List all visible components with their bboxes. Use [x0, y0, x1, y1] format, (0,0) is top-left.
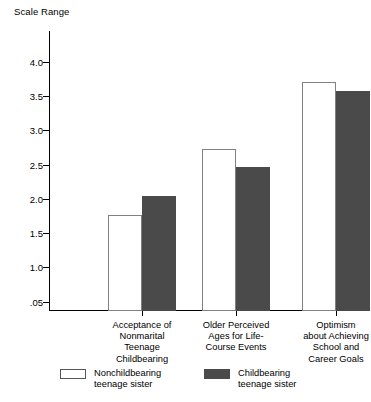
- bar-nonchildbearing: [202, 149, 236, 311]
- y-tick: [43, 267, 49, 268]
- bar-chart: Scale Range 4.03.53.02.52.01.51.0.05 Acc…: [0, 0, 371, 402]
- x-tick: [236, 311, 237, 316]
- y-tick-label: 1.5: [9, 229, 43, 239]
- bar-childbearing: [142, 196, 176, 311]
- category-label: Optimism about Achieving School and Care…: [276, 320, 371, 365]
- y-tick: [43, 62, 49, 63]
- y-axis-title: Scale Range: [14, 6, 70, 17]
- y-tick: [43, 199, 49, 200]
- x-tick: [336, 311, 337, 316]
- y-tick-label: 3.5: [9, 92, 43, 102]
- y-tick-label: .05: [9, 298, 43, 308]
- legend-item: Childbearing teenage sister: [204, 368, 296, 390]
- y-axis-line: [49, 31, 50, 311]
- legend-item: Nonchildbearing teenage sister: [60, 368, 161, 390]
- bar-childbearing: [336, 91, 370, 311]
- bar-nonchildbearing: [108, 215, 142, 311]
- y-tick: [43, 130, 49, 131]
- bar-nonchildbearing: [302, 82, 336, 311]
- y-tick: [43, 165, 49, 166]
- y-tick: [43, 302, 49, 303]
- y-tick-label: 4.0: [9, 58, 43, 68]
- y-tick-label: 2.0: [9, 195, 43, 205]
- y-tick: [43, 96, 49, 97]
- y-tick: [43, 233, 49, 234]
- y-axis-tick-labels: 4.03.53.02.52.01.51.0.05: [6, 31, 43, 311]
- legend-label: Childbearing teenage sister: [238, 368, 296, 390]
- y-tick-label: 1.0: [9, 263, 43, 273]
- legend-swatch-light: [60, 369, 86, 379]
- y-tick-label: 3.0: [9, 126, 43, 136]
- legend-swatch-dark: [204, 369, 230, 379]
- legend-label: Nonchildbearing teenage sister: [94, 368, 161, 390]
- chart-legend: Nonchildbearing teenage sisterChildbeari…: [0, 368, 371, 402]
- y-tick-label: 2.5: [9, 161, 43, 171]
- x-tick: [142, 311, 143, 316]
- plot-area: [49, 31, 356, 311]
- bar-childbearing: [236, 167, 270, 311]
